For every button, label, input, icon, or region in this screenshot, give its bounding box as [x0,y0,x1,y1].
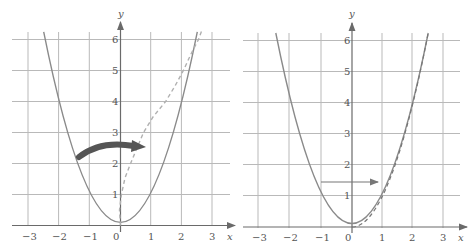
svg-text:−2: −2 [52,231,67,242]
svg-text:0: 0 [113,231,119,242]
svg-text:4: 4 [112,96,118,107]
svg-text:5: 5 [344,66,350,77]
svg-text:1: 1 [112,189,118,200]
svg-text:3: 3 [112,127,118,138]
right-x-label: x [458,232,464,243]
left-x-ticks: −3 −2 −1 0 1 2 3 [22,231,215,242]
left-y-label: y [117,8,124,19]
left-x-label: x [227,231,233,242]
svg-text:0: 0 [345,232,351,243]
svg-text:−3: −3 [22,231,37,242]
figure: y x −3 −2 −1 0 1 2 3 1 2 3 4 5 6 [0,0,475,250]
left-chart: y x −3 −2 −1 0 1 2 3 1 2 3 4 5 6 [12,8,235,242]
svg-text:−1: −1 [83,231,98,242]
svg-text:1: 1 [344,190,350,201]
right-dashed-curve [352,33,428,227]
svg-text:2: 2 [344,159,350,170]
left-y-ticks: 1 2 3 4 5 6 [112,34,118,200]
svg-text:−1: −1 [315,232,330,243]
svg-text:4: 4 [344,97,350,108]
svg-text:6: 6 [344,35,350,46]
svg-text:6: 6 [112,34,118,45]
right-y-label: y [348,8,355,19]
svg-text:1: 1 [379,232,385,243]
svg-text:1: 1 [148,231,154,242]
svg-text:3: 3 [344,128,350,139]
right-y-ticks: 1 2 3 4 5 6 [344,35,350,201]
svg-text:2: 2 [178,231,184,242]
svg-text:5: 5 [112,65,118,76]
right-x-ticks: −3 −2 −1 0 1 2 3 [252,232,446,243]
left-dashed-curve [120,30,203,226]
svg-text:2: 2 [112,158,118,169]
svg-text:−2: −2 [283,232,298,243]
right-chart: y x −3 −2 −1 0 1 2 3 1 2 3 4 5 6 [243,8,467,243]
svg-text:3: 3 [440,232,446,243]
svg-text:2: 2 [409,232,415,243]
svg-text:3: 3 [209,231,215,242]
svg-text:−3: −3 [252,232,267,243]
